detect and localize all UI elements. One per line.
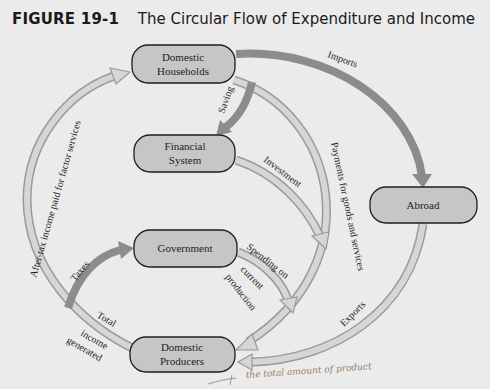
node-domestic-households: Domestic Households <box>132 45 235 83</box>
circular-flow-diagram: Domestic Households Financial System Gov… <box>0 0 490 389</box>
label-saving: Saving <box>216 85 236 115</box>
after-tax-income-arrow <box>27 68 132 348</box>
svg-text:System: System <box>169 154 202 166</box>
exports-arrow <box>238 224 423 370</box>
svg-text:Abroad: Abroad <box>407 199 440 211</box>
svg-text:Domestic: Domestic <box>161 341 203 353</box>
imports-arrow <box>236 54 432 188</box>
node-abroad: Abroad <box>370 187 477 223</box>
svg-text:Financial: Financial <box>165 140 206 152</box>
svg-text:Domestic: Domestic <box>162 51 204 63</box>
label-payments: Payments for goods and services <box>329 141 367 272</box>
figure-canvas: FIGURE 19-1 The Circular Flow of Expendi… <box>0 0 490 389</box>
node-domestic-producers: Domestic Producers <box>130 337 235 372</box>
svg-text:Government: Government <box>158 242 213 254</box>
svg-text:Producers: Producers <box>160 355 204 367</box>
node-government: Government <box>134 230 237 267</box>
svg-text:Households: Households <box>157 65 209 77</box>
node-financial-system: Financial System <box>134 135 235 172</box>
